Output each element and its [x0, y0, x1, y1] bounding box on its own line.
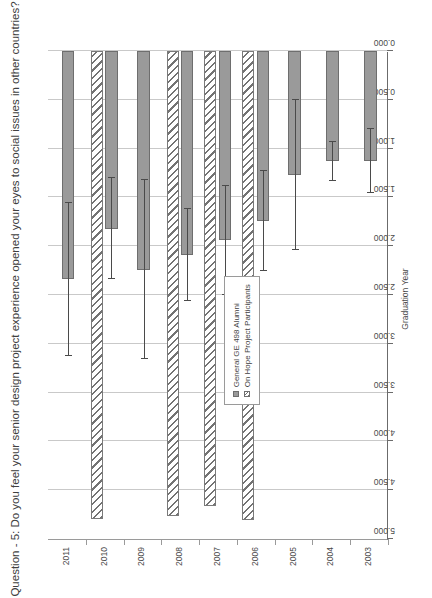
rotated-page-wrapper: Question - 5: Do you feel your senior de… — [0, 0, 432, 598]
value-axis-tick — [387, 245, 393, 246]
chart-title: Question - 5: Do you feel your senior de… — [8, 0, 23, 598]
error-bar-cap — [65, 202, 72, 203]
category-axis-label: 2006 — [250, 547, 260, 591]
value-axis-tick — [387, 489, 393, 490]
value-axis-tick — [387, 99, 393, 100]
category-axis-label: 2003 — [363, 547, 373, 591]
category-axis-tick — [86, 539, 87, 545]
value-axis-tick-label: 5.000 — [374, 526, 395, 536]
category-axis-label: 2007 — [212, 547, 222, 591]
value-axis-tick-label: 2.500 — [374, 282, 395, 292]
chart-canvas: Question - 5: Do you feel your senior de… — [0, 0, 432, 598]
value-axis-tick-label: 4.000 — [374, 428, 395, 438]
value-axis-tick-label: 3.500 — [374, 380, 395, 390]
category-axis-tick — [388, 539, 389, 545]
error-bar-cap — [184, 300, 191, 301]
category-axis-label: 2009 — [136, 547, 146, 591]
legend-swatch-onhope-icon — [244, 391, 250, 397]
error-bar — [332, 142, 333, 181]
error-bar — [295, 100, 296, 250]
error-bar-cap — [108, 278, 115, 279]
error-bar — [144, 180, 145, 360]
legend-label-general: General GE 498 Alumni — [232, 303, 241, 387]
value-axis-tick-label: 0.000 — [374, 38, 395, 48]
error-bar-cap — [367, 128, 374, 129]
bar-onhope — [91, 51, 103, 519]
error-bar-cap — [260, 170, 267, 171]
value-axis-tick-label: 1.000 — [374, 136, 395, 146]
value-axis-tick-label: 0.500 — [374, 87, 395, 97]
category-axis-label: 2008 — [174, 547, 184, 591]
value-axis-tick — [387, 148, 393, 149]
error-bar-cap — [65, 355, 72, 356]
error-bar-cap — [292, 249, 299, 250]
error-bar-cap — [367, 193, 374, 194]
legend-label-onhope: On Hope Project Participants — [243, 284, 252, 387]
error-bar-cap — [141, 358, 148, 359]
value-axis-tick-label: 4.500 — [374, 477, 395, 487]
error-bar-cap — [141, 179, 148, 180]
bar-onhope — [167, 51, 179, 516]
error-bar-cap — [222, 185, 229, 186]
value-axis-tick — [387, 392, 393, 393]
category-axis-label: 2010 — [99, 547, 109, 591]
error-bar-cap — [329, 180, 336, 181]
value-axis-tick — [387, 343, 393, 344]
error-bar-cap — [108, 177, 115, 178]
plot-area: 5.0004.5004.0003.5003.0002.5002.0001.500… — [48, 52, 388, 540]
value-axis-tick — [387, 294, 393, 295]
category-axis-tick — [237, 539, 238, 545]
error-bar — [370, 129, 371, 193]
error-bar-cap — [292, 99, 299, 100]
category-axis-tick — [350, 539, 351, 545]
value-axis-tick — [387, 50, 393, 51]
error-bar-cap — [184, 208, 191, 209]
category-axis-tick — [124, 539, 125, 545]
legend-item-onhope: On Hope Project Participants — [243, 284, 252, 397]
value-axis-tick-label: 3.000 — [374, 331, 395, 341]
bar-onhope — [204, 51, 216, 506]
category-axis-tick — [199, 539, 200, 545]
chart-legend: General GE 498 Alumni On Hope Project Pa… — [224, 276, 260, 405]
category-axis-label: 2004 — [325, 547, 335, 591]
value-axis-tick-label: 1.500 — [374, 184, 395, 194]
category-axis-label: 2011 — [61, 547, 71, 591]
category-axis-label: 2005 — [288, 547, 298, 591]
category-axis-tick — [161, 539, 162, 545]
error-bar-cap — [260, 270, 267, 271]
error-bar — [68, 203, 69, 355]
error-bar — [263, 171, 264, 271]
value-axis-tick — [387, 196, 393, 197]
value-axis-tick-label: 2.000 — [374, 233, 395, 243]
legend-swatch-general-icon — [233, 391, 239, 397]
error-bar — [187, 209, 188, 301]
category-axis-tick — [275, 539, 276, 545]
x-axis-title: Graduation Year — [400, 0, 410, 598]
value-axis-tick — [387, 440, 393, 441]
legend-item-general: General GE 498 Alumni — [232, 284, 241, 397]
category-axis-tick — [312, 539, 313, 545]
error-bar — [111, 178, 112, 280]
error-bar-cap — [329, 141, 336, 142]
